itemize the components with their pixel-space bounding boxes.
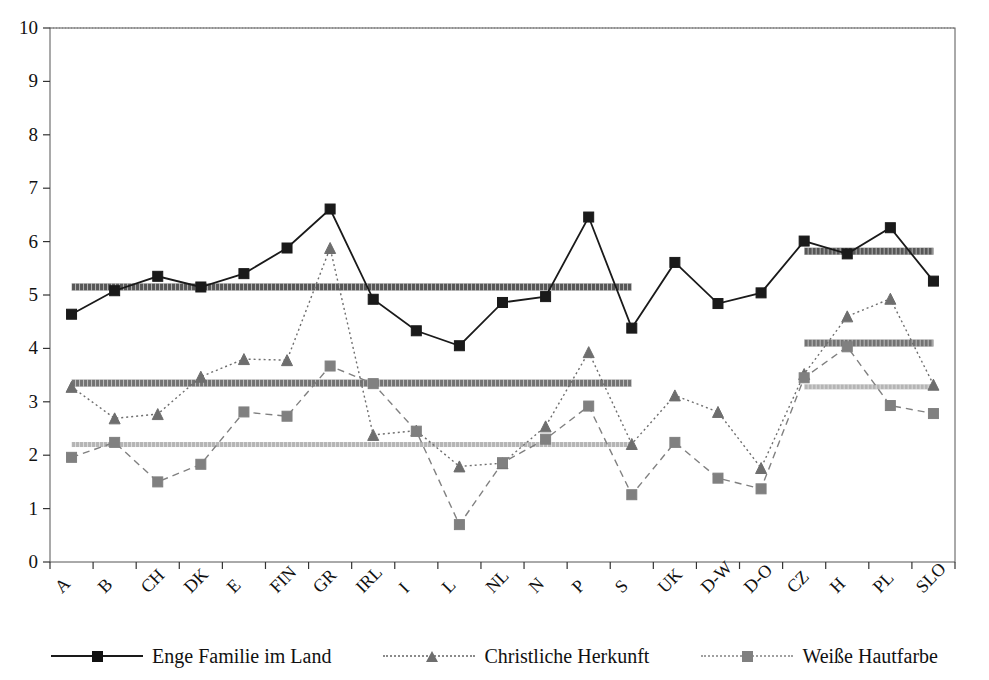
data-point-marker: [454, 461, 465, 472]
data-point-marker: [669, 390, 680, 401]
y-tick-label: 3: [0, 392, 38, 411]
series-2: [66, 243, 939, 474]
data-point-marker: [368, 379, 378, 389]
data-point-marker: [325, 204, 335, 214]
data-point-marker: [670, 437, 680, 447]
data-point-marker: [325, 361, 335, 371]
reference-line-band: [804, 384, 933, 389]
data-point-marker: [584, 401, 594, 411]
series-line: [72, 209, 934, 346]
data-point-marker: [756, 463, 767, 474]
data-point-marker: [584, 212, 594, 222]
data-point-marker: [196, 459, 206, 469]
data-point-marker: [885, 223, 895, 233]
data-point-marker: [239, 269, 249, 279]
data-point-marker: [541, 434, 551, 444]
data-point-marker: [454, 520, 464, 530]
y-tick-label: 9: [0, 71, 38, 90]
plot-frame: [50, 28, 955, 562]
data-point-marker: [842, 249, 852, 259]
data-point-marker: [196, 282, 206, 292]
legend-swatch-enge-familie: [51, 649, 143, 663]
data-point-marker: [885, 401, 895, 411]
legend-label-enge-familie: Enge Familie im Land: [152, 645, 331, 668]
legend-label-christliche-herkunft: Christliche Herkunft: [484, 645, 649, 668]
chart-container: 012345678910ABCHDKEFINGRIRLILNLNPSUKD-WD…: [0, 0, 989, 680]
data-point-marker: [756, 484, 766, 494]
data-point-marker: [713, 299, 723, 309]
data-point-marker: [411, 426, 421, 436]
data-point-marker: [238, 354, 249, 365]
legend-item-christliche-herkunft: Christliche Herkunft: [383, 645, 649, 668]
data-point-marker: [325, 243, 336, 254]
chart-legend: Enge Familie im Land Christliche Herkunf…: [0, 636, 989, 676]
data-point-marker: [541, 292, 551, 302]
data-point-marker: [67, 309, 77, 319]
data-point-marker: [627, 323, 637, 333]
data-point-marker: [110, 286, 120, 296]
data-point-marker: [842, 311, 853, 322]
data-point-marker: [153, 271, 163, 281]
data-point-marker: [195, 371, 206, 382]
data-point-marker: [282, 411, 292, 421]
data-point-marker: [152, 409, 163, 420]
data-point-marker: [67, 452, 77, 462]
data-point-marker: [239, 407, 249, 417]
legend-item-weisse-hautfarbe: Weiße Hautfarbe: [701, 645, 938, 668]
data-point-marker: [454, 341, 464, 351]
legend-marker-triangle-gray: [426, 651, 438, 662]
legend-swatch-christliche-herkunft: [383, 649, 475, 663]
y-tick-label: 0: [0, 552, 38, 571]
y-tick-label: 6: [0, 232, 38, 251]
series-line: [72, 248, 934, 468]
data-point-marker: [928, 276, 938, 286]
data-point-marker: [540, 421, 551, 432]
data-point-marker: [368, 294, 378, 304]
legend-swatch-weisse-hautfarbe: [701, 649, 793, 663]
data-point-marker: [670, 257, 680, 267]
data-point-marker: [411, 326, 421, 336]
y-tick-label: 8: [0, 125, 38, 144]
series-3: [67, 342, 939, 530]
legend-item-enge-familie: Enge Familie im Land: [51, 645, 331, 668]
y-tick-label: 2: [0, 445, 38, 464]
data-point-marker: [110, 437, 120, 447]
reference-line-christliche-herkunft-mean-cee: [804, 340, 933, 347]
y-tick-label: 5: [0, 285, 38, 304]
data-point-marker: [282, 355, 293, 366]
reference-line-band: [804, 340, 933, 347]
data-point-marker: [799, 236, 809, 246]
y-tick-label: 7: [0, 178, 38, 197]
data-point-marker: [799, 373, 809, 383]
reference-line-christliche-herkunft-mean-eu: [72, 380, 632, 387]
data-point-marker: [885, 293, 896, 304]
series-1: [67, 204, 939, 351]
reference-line-enge-familie-mean-cee: [804, 248, 933, 255]
data-point-marker: [583, 347, 594, 358]
y-tick-label: 4: [0, 338, 38, 357]
data-point-marker: [756, 288, 766, 298]
data-point-marker: [712, 406, 723, 417]
data-point-marker: [368, 429, 379, 440]
data-point-marker: [928, 409, 938, 419]
data-point-marker: [713, 473, 723, 483]
y-tick-label: 10: [0, 18, 38, 37]
reference-line-band: [804, 248, 933, 255]
legend-marker-square-black: [92, 651, 103, 662]
reference-line-enge-familie-mean-eu: [72, 283, 632, 290]
data-point-marker: [498, 458, 508, 468]
data-point-marker: [627, 490, 637, 500]
legend-label-weisse-hautfarbe: Weiße Hautfarbe: [802, 645, 938, 668]
data-point-marker: [153, 477, 163, 487]
reference-line-weisse-hautfarbe-mean-cee: [804, 384, 933, 389]
data-point-marker: [498, 297, 508, 307]
data-point-marker: [842, 342, 852, 352]
data-point-marker: [282, 243, 292, 253]
data-point-marker: [109, 413, 120, 424]
y-tick-label: 1: [0, 499, 38, 518]
legend-marker-square-gray: [742, 651, 753, 662]
